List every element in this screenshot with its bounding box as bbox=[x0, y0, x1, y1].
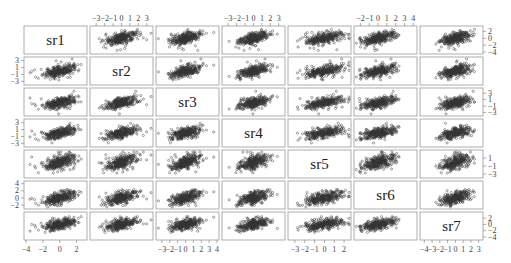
scatter-panel bbox=[156, 119, 219, 147]
tick-label: 0 bbox=[322, 245, 326, 254]
diagonal-label-panel: sr6 bbox=[354, 181, 417, 209]
tick-label: −1 bbox=[241, 14, 250, 23]
bottom-axis-sr1: −4−202 bbox=[22, 240, 79, 254]
diagonal-label-panel: sr4 bbox=[222, 119, 285, 147]
scatter-panel bbox=[288, 88, 351, 116]
scatter-panel bbox=[288, 212, 351, 240]
tick-label: −3 bbox=[488, 108, 497, 117]
left-axis-sr4: 31−1−3 bbox=[10, 118, 24, 148]
scatter-panel bbox=[354, 57, 417, 85]
tick-label: 1 bbox=[260, 14, 264, 23]
diagonal-label-panel: sr3 bbox=[156, 88, 219, 116]
scatter-panel bbox=[354, 150, 417, 178]
tick-label: −4 bbox=[488, 48, 497, 57]
scatter-panel bbox=[222, 57, 285, 85]
tick-label: 2 bbox=[469, 245, 473, 254]
left-axis-sr6: 420−2 bbox=[10, 179, 24, 209]
top-axis-sr4: −3−2−10123 bbox=[224, 14, 281, 26]
tick-label: 3 bbox=[477, 245, 481, 254]
tick-label: 2 bbox=[342, 245, 346, 254]
left-axis-sr2: 31−1−3 bbox=[10, 56, 24, 86]
scatter-panel bbox=[24, 88, 87, 116]
variable-label: sr2 bbox=[112, 63, 130, 79]
variable-label: sr3 bbox=[178, 94, 196, 110]
diagonal-label-panel: sr2 bbox=[90, 57, 153, 85]
scatter-panel bbox=[288, 26, 351, 54]
tick-label: 3 bbox=[402, 14, 406, 23]
tick-label: 3 bbox=[207, 245, 211, 254]
scatter-panel bbox=[222, 88, 285, 116]
right-axis-sr1: 20−2−4 bbox=[483, 27, 497, 57]
scatter-panel bbox=[90, 119, 153, 147]
scatter-panel bbox=[288, 57, 351, 85]
variable-label: sr5 bbox=[310, 156, 328, 172]
scatter-panel bbox=[288, 119, 351, 147]
scatter-panel bbox=[156, 181, 219, 209]
scatter-panel bbox=[24, 212, 87, 240]
diagonal-label-panel: sr1 bbox=[24, 26, 87, 54]
scatter-panel bbox=[156, 212, 219, 240]
tick-label: −4 bbox=[22, 245, 31, 254]
tick-label: −3 bbox=[10, 77, 19, 86]
scatter-panel bbox=[420, 57, 483, 85]
scatter-panel bbox=[156, 26, 219, 54]
tick-label: −2 bbox=[300, 245, 309, 254]
right-axis-sr3: 31−1−3 bbox=[483, 89, 497, 117]
scatter-panel bbox=[354, 26, 417, 54]
scatter-panel bbox=[354, 119, 417, 147]
tick-label: 4 bbox=[411, 14, 415, 23]
scatter-panel bbox=[222, 181, 285, 209]
bottom-axis-sr7: −4−3−2−10123 bbox=[420, 240, 481, 254]
tick-label: −3 bbox=[291, 245, 300, 254]
tick-label: 2 bbox=[394, 14, 398, 23]
variable-label: sr6 bbox=[376, 187, 395, 203]
scatterplot-matrix: sr1sr2sr3sr4sr5sr6sr7−3−2−10123−3−2−1012… bbox=[0, 0, 511, 263]
tick-label: −1 bbox=[310, 245, 319, 254]
tick-label: 1 bbox=[385, 14, 389, 23]
scatter-panel bbox=[222, 212, 285, 240]
tick-label: 1 bbox=[461, 245, 465, 254]
tick-label: 2 bbox=[199, 245, 203, 254]
tick-label: −3 bbox=[10, 139, 19, 148]
scatter-panel bbox=[90, 88, 153, 116]
tick-label: −2 bbox=[232, 14, 241, 23]
tick-label: 2 bbox=[136, 14, 140, 23]
scatter-panel bbox=[420, 181, 483, 209]
top-axis-sr2: −3−2−10123 bbox=[92, 14, 149, 26]
scatter-panel bbox=[288, 181, 351, 209]
tick-label: 2 bbox=[268, 14, 272, 23]
tick-label: 3 bbox=[277, 14, 281, 23]
scatter-panel bbox=[24, 150, 87, 178]
scatter-panel bbox=[90, 26, 153, 54]
tick-label: −3 bbox=[224, 14, 233, 23]
scatter-panel bbox=[90, 181, 153, 209]
tick-label: −3 bbox=[92, 14, 101, 23]
tick-label: 4 bbox=[215, 245, 219, 254]
scatter-panel bbox=[24, 119, 87, 147]
bottom-axis-sr3: −3−2−101234 bbox=[158, 240, 219, 254]
tick-label: 1 bbox=[332, 245, 336, 254]
scatter-panel bbox=[354, 88, 417, 116]
tick-label: 1 bbox=[128, 14, 132, 23]
bottom-axis-sr5: −3−2−1012 bbox=[291, 240, 346, 254]
variable-label: sr7 bbox=[442, 218, 461, 234]
variable-label: sr1 bbox=[46, 32, 64, 48]
tick-label: −1 bbox=[443, 245, 452, 254]
diagonal-label-panel: sr7 bbox=[420, 212, 483, 240]
scatter-panel bbox=[420, 26, 483, 54]
scatter-panel bbox=[90, 212, 153, 240]
tick-label: −1 bbox=[173, 245, 182, 254]
scatter-panel bbox=[24, 181, 87, 209]
scatter-panel bbox=[90, 150, 153, 178]
tick-label: 3 bbox=[145, 14, 149, 23]
tick-label: 0 bbox=[376, 14, 380, 23]
scatter-panel bbox=[24, 57, 87, 85]
top-axis-sr6: −2−101234 bbox=[356, 14, 415, 26]
scatter-panel bbox=[222, 150, 285, 178]
tick-label: 0 bbox=[58, 245, 62, 254]
tick-label: −4 bbox=[488, 233, 497, 242]
tick-label: 0 bbox=[252, 14, 256, 23]
scatter-panel bbox=[420, 150, 483, 178]
tick-label: 0 bbox=[120, 14, 124, 23]
tick-label: −1 bbox=[109, 14, 118, 23]
